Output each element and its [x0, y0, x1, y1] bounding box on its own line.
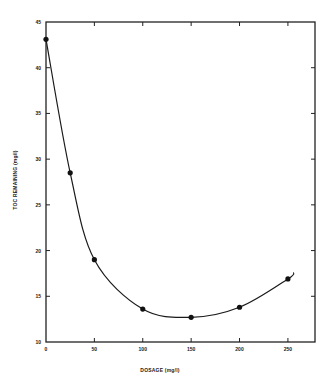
data-point-marker: [43, 37, 48, 42]
data-point-marker: [189, 315, 194, 320]
x-tick-label: 150: [187, 346, 196, 352]
y-tick-label: 45: [35, 19, 41, 25]
data-point-marker: [68, 170, 73, 175]
y-tick-label: 15: [35, 293, 41, 299]
y-tick-label: 30: [35, 156, 41, 162]
data-point-marker: [237, 305, 242, 310]
fitted-curve: [46, 39, 294, 317]
data-point-marker: [92, 257, 97, 262]
x-tick-label: 100: [139, 346, 148, 352]
plot-area: 1015202530354045050100150200250: [0, 0, 333, 388]
x-tick-label: 50: [92, 346, 98, 352]
x-tick-label: 250: [284, 346, 293, 352]
plot-frame: [46, 22, 315, 342]
data-point-marker: [285, 276, 290, 281]
x-axis-label: DOSAGE (mg/l): [140, 367, 179, 373]
x-tick-label: 0: [45, 346, 48, 352]
y-axis-label: TOC REMAINING (mg/l): [12, 150, 18, 209]
y-tick-label: 35: [35, 110, 41, 116]
y-tick-label: 25: [35, 202, 41, 208]
x-tick-label: 200: [235, 346, 244, 352]
y-tick-label: 20: [35, 248, 41, 254]
y-tick-label: 40: [35, 65, 41, 71]
chart: 1015202530354045050100150200250 TOC REMA…: [0, 0, 333, 388]
data-point-marker: [140, 306, 145, 311]
y-tick-label: 10: [35, 339, 41, 345]
